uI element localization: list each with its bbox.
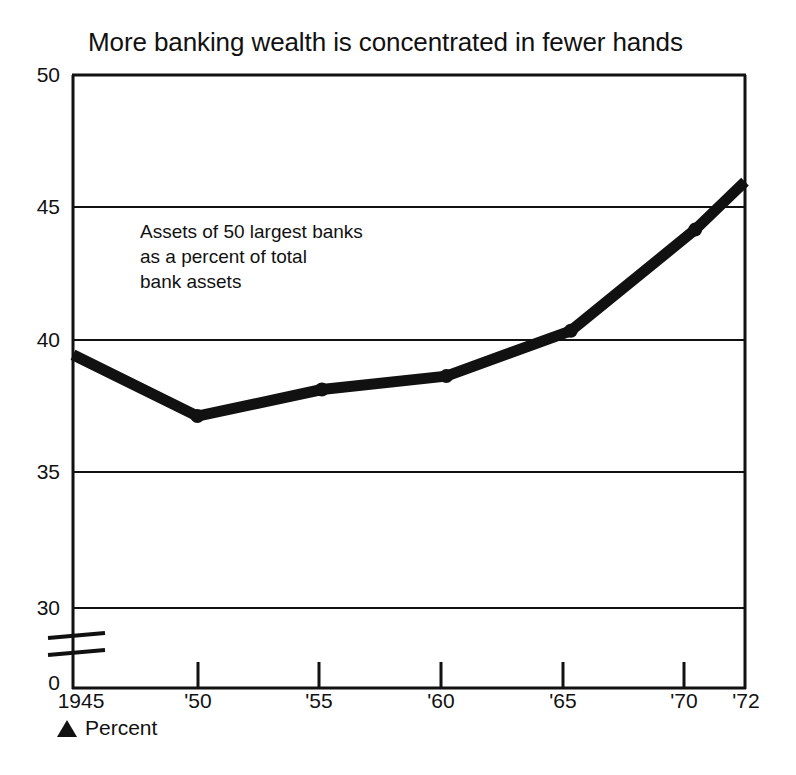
x-tick-label-1972: '72 [716,690,776,711]
axis-break-mark-upper [48,633,105,638]
plot-annotation-text: Assets of 50 largest banks as a percent … [140,219,363,294]
data-point-1950 [190,409,204,423]
x-tick-label-1970: '70 [654,690,714,711]
y-tick-label-35: 35 [8,461,60,482]
y-tick-label-45: 45 [8,196,60,217]
units-note: Percent [57,716,157,740]
triangle-marker-icon [57,720,77,737]
x-tick-label-1960: '60 [411,690,471,711]
x-tick-label-1965: '65 [533,690,593,711]
y-tick-label-50: 50 [8,64,60,85]
data-point-1970 [688,223,702,237]
chart-container: More banking wealth is concentrated in f… [0,0,796,775]
data-point-1955 [315,383,329,397]
x-tick-label-1950: '50 [168,690,228,711]
data-series-line [73,182,745,417]
data-point-1965 [564,324,578,338]
x-tick-label-1945: 1945 [41,690,121,711]
y-tick-label-40: 40 [8,329,60,350]
axis-break-mark-lower [48,650,105,655]
x-tick-label-1955: '55 [289,690,349,711]
data-point-1960 [439,369,453,383]
y-tick-label-30: 30 [8,597,60,618]
units-note-label: Percent [85,716,157,740]
chart-plot-area [0,0,796,775]
